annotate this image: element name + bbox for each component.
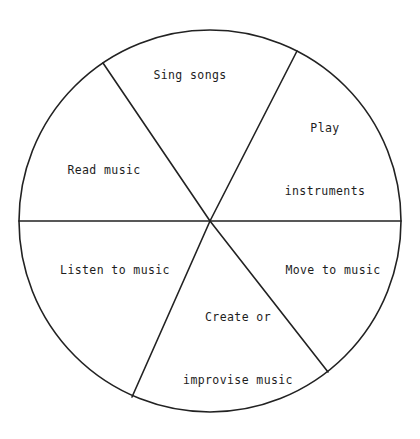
sector-label-move-to-music-line-1: Move to music	[285, 260, 380, 281]
sector-label-create-or-improvise-music: Create or improvise music	[183, 265, 293, 433]
sector-label-create-or-improvise-music-line-2: improvise music	[183, 370, 293, 391]
music-activities-wheel-diagram: Sing songs Play instruments Move to musi…	[0, 0, 420, 439]
sector-label-move-to-music: Move to music	[285, 218, 380, 323]
sector-label-read-music: Read music	[67, 118, 140, 223]
sector-label-sing-songs-line-1: Sing songs	[153, 65, 226, 86]
sector-label-read-music-line-1: Read music	[67, 160, 140, 181]
sector-labels-layer: Sing songs Play instruments Move to musi…	[0, 0, 420, 439]
sector-label-listen-to-music-line-1: Listen to music	[60, 260, 170, 281]
sector-label-sing-songs: Sing songs	[153, 23, 226, 128]
sector-label-play-instruments-line-1: Play	[285, 118, 366, 139]
sector-label-listen-to-music: Listen to music	[60, 218, 170, 323]
sector-label-create-or-improvise-music-line-1: Create or	[183, 307, 293, 328]
sector-label-play-instruments-line-2: instruments	[285, 181, 366, 202]
